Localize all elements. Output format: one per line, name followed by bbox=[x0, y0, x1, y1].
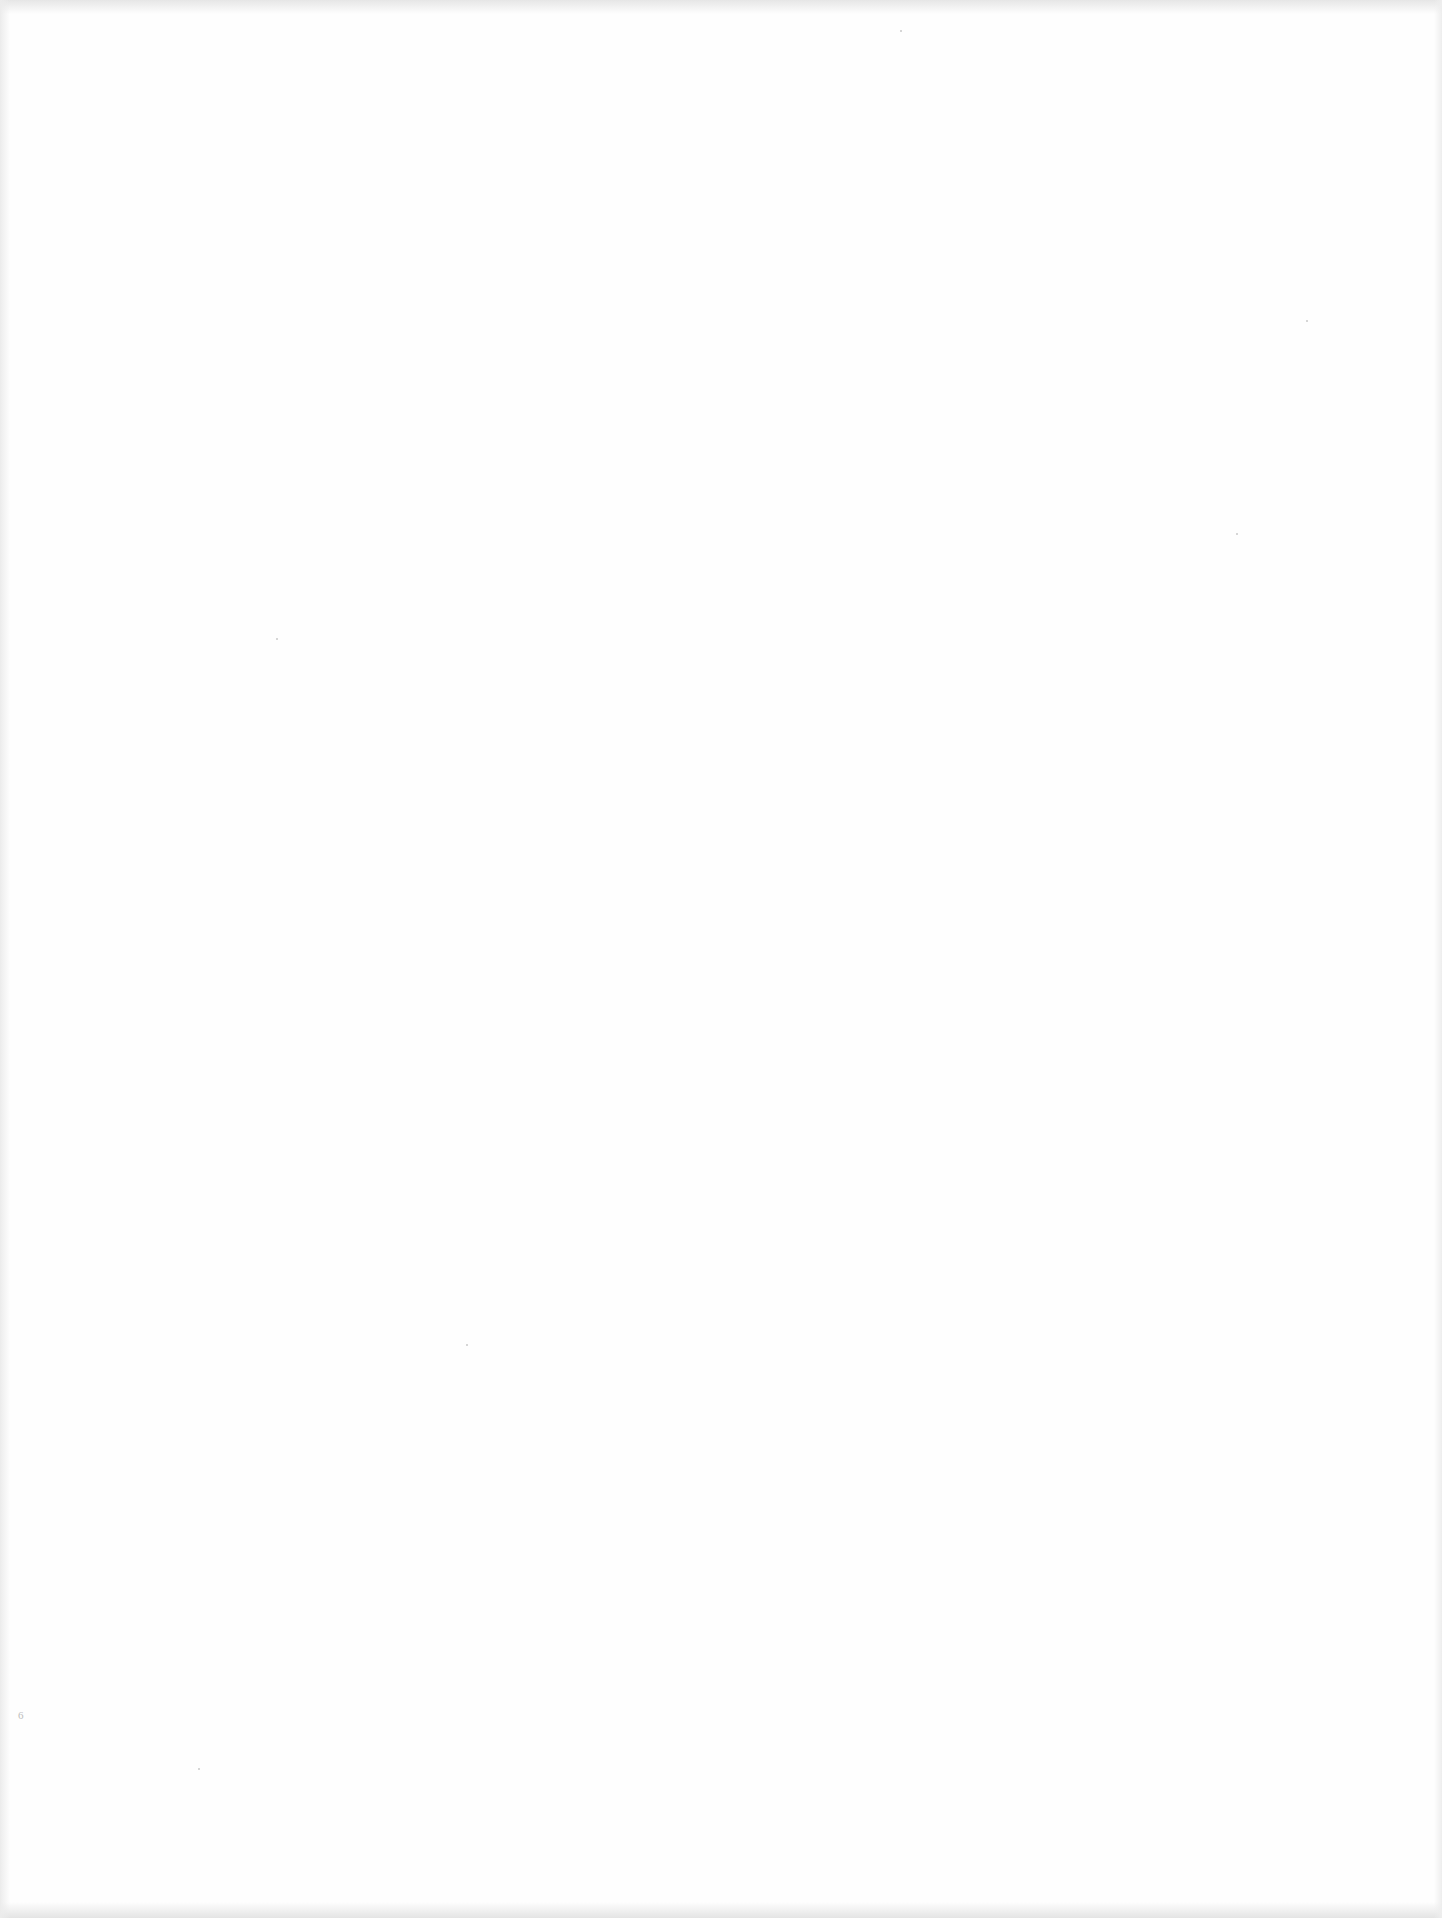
scan-edge-right bbox=[1434, 0, 1442, 1918]
scan-edge-left bbox=[0, 0, 10, 1918]
scan-speck bbox=[198, 1768, 200, 1770]
scan-speck bbox=[1236, 533, 1238, 535]
scan-speck bbox=[276, 638, 278, 640]
blank-page: 6 bbox=[0, 0, 1442, 1918]
scan-edge-top bbox=[0, 0, 1442, 14]
page-number: 6 bbox=[18, 1709, 24, 1721]
scan-speck bbox=[900, 30, 902, 32]
scan-speck bbox=[1306, 320, 1308, 322]
scan-edge-bottom bbox=[0, 1902, 1442, 1918]
scan-speck bbox=[466, 1344, 468, 1346]
